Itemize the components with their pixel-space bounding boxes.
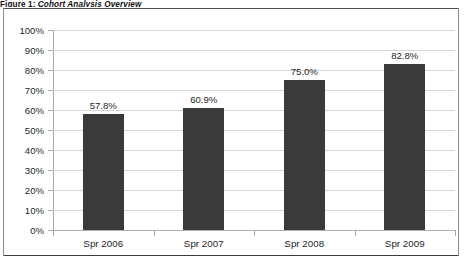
y-axis-label: 70% (25, 85, 44, 96)
bar-value-label: 82.8% (391, 50, 418, 61)
bar-value-label: 57.8% (90, 100, 117, 111)
x-axis-label: Spr 2007 (184, 238, 224, 249)
bar-value-label: 60.9% (190, 94, 217, 105)
x-axis-label: Spr 2006 (83, 238, 123, 249)
figure-caption: Figure 1: Cohort Analysis Overview (0, 0, 465, 7)
y-axis-label: 50% (25, 125, 44, 136)
y-axis-label: 40% (25, 145, 44, 156)
bar-value-label: 75.0% (291, 66, 318, 77)
x-axis-tick (154, 230, 155, 236)
figure-caption-body: Cohort Analysis Overview (35, 0, 141, 7)
bar[interactable] (183, 108, 224, 230)
x-axis-label: Spr 2009 (385, 238, 425, 249)
bar[interactable] (83, 114, 124, 230)
chart-frame-bottom-border (3, 255, 459, 256)
x-axis-tick (455, 230, 456, 236)
chart-frame-top-border (3, 8, 459, 9)
y-axis-label: 60% (25, 105, 44, 116)
chart-frame-right-border (458, 8, 459, 256)
gridline (53, 30, 455, 31)
y-axis-label: 80% (25, 65, 44, 76)
figure-container: Figure 1: Cohort Analysis Overview 0%10%… (0, 0, 465, 269)
y-axis-label: 20% (25, 185, 44, 196)
figure-caption-label: Figure 1: (0, 0, 35, 7)
bar[interactable] (284, 80, 325, 230)
y-axis-label: 90% (25, 45, 44, 56)
y-axis-label: 0% (30, 225, 44, 236)
x-axis-tick (355, 230, 356, 236)
x-axis-label: Spr 2008 (284, 238, 324, 249)
chart-frame-left-border (3, 8, 4, 256)
x-axis-tick (254, 230, 255, 236)
plot-area: 57.8%60.9%75.0%82.8% (53, 30, 455, 230)
y-axis-label: 30% (25, 165, 44, 176)
y-axis-label: 10% (25, 205, 44, 216)
y-axis-label: 100% (19, 25, 44, 36)
bar[interactable] (384, 64, 425, 230)
x-axis-tick (53, 230, 54, 236)
